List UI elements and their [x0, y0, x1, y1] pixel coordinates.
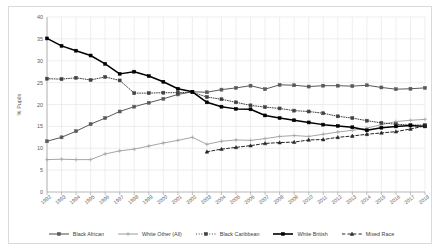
data-point-marker — [161, 141, 165, 145]
data-point-marker — [307, 121, 310, 124]
data-point-marker — [89, 123, 92, 126]
data-point-marker — [307, 85, 310, 88]
data-point-marker — [147, 101, 150, 104]
x-tick-label: 2011 — [316, 194, 328, 206]
data-point-marker — [191, 90, 194, 93]
x-tick-label: 2009 — [287, 193, 300, 205]
data-point-marker — [380, 121, 383, 124]
chart-legend: Black AfricanWhite Other (All)Black Cari… — [9, 225, 433, 243]
data-point-marker — [351, 85, 354, 88]
line-chart-plot: 0510152025303540 19921993199419951996199… — [9, 7, 433, 225]
data-point-marker — [351, 117, 354, 120]
legend-item-white-british[interactable]: White British — [272, 230, 327, 238]
data-point-marker — [380, 126, 383, 129]
data-point-marker — [60, 44, 63, 47]
data-point-marker — [336, 124, 339, 127]
data-point-marker — [365, 129, 368, 132]
x-tick-label: 2018 — [417, 193, 430, 205]
data-point-marker — [336, 115, 339, 118]
data-point-marker — [424, 86, 427, 89]
x-tick-label: 1995 — [83, 193, 96, 205]
x-tick-label: 2007 — [258, 193, 271, 205]
data-point-marker — [118, 110, 121, 113]
data-point-marker — [264, 106, 267, 109]
legend-key-icon — [195, 230, 217, 238]
data-point-marker — [89, 158, 93, 162]
data-point-marker — [282, 233, 285, 236]
x-tick-label: 1999 — [141, 193, 154, 205]
data-point-marker — [264, 114, 267, 117]
x-tick-label: 2016 — [388, 193, 401, 205]
x-tick-label: 2013 — [345, 193, 358, 205]
data-point-marker — [118, 79, 121, 82]
data-point-marker — [60, 157, 64, 161]
legend-label: White British — [297, 231, 327, 237]
legend-item-white-other-all[interactable]: White Other (All) — [117, 230, 182, 238]
legend-item-black-caribbean[interactable]: Black Caribbean — [195, 230, 260, 238]
data-point-marker — [293, 109, 296, 112]
x-tick-label: 2017 — [403, 193, 416, 205]
legend-key-icon — [117, 230, 139, 238]
data-point-marker — [118, 72, 121, 75]
data-point-marker — [293, 84, 296, 87]
data-point-marker — [75, 49, 78, 52]
legend-key-icon — [48, 230, 70, 238]
legend-label: White Other (All) — [142, 231, 182, 237]
data-point-marker — [235, 101, 238, 104]
x-tick-label: 1998 — [127, 193, 140, 205]
x-tick-label: 2001 — [170, 193, 183, 205]
data-point-marker — [278, 117, 281, 120]
data-point-marker — [365, 119, 368, 122]
data-point-marker — [147, 92, 150, 95]
data-point-marker — [249, 104, 252, 107]
data-point-marker — [278, 83, 281, 86]
data-point-marker — [162, 91, 165, 94]
data-point-marker — [293, 119, 296, 122]
grid-lines — [47, 17, 425, 192]
data-point-marker — [126, 232, 130, 236]
data-point-marker — [307, 110, 310, 113]
data-point-marker — [264, 88, 267, 91]
data-point-marker — [205, 91, 208, 94]
data-point-marker — [380, 86, 383, 89]
data-point-marker — [162, 80, 165, 83]
x-axis-tick-labels: 1992199319941995199619971998199920002001… — [39, 193, 430, 205]
y-tick-label: 0 — [40, 189, 43, 195]
data-point-marker — [46, 77, 49, 80]
data-point-marker — [133, 92, 136, 95]
y-tick-label: 25 — [37, 80, 43, 86]
y-tick-label: 15 — [37, 123, 43, 129]
x-tick-label: 2000 — [156, 193, 169, 205]
y-tick-label: 35 — [37, 36, 43, 42]
data-point-marker — [394, 125, 397, 128]
data-point-marker — [292, 134, 296, 138]
y-tick-label: 10 — [37, 145, 43, 151]
data-point-marker — [46, 37, 49, 40]
data-point-marker — [365, 84, 368, 87]
data-point-marker — [118, 149, 122, 153]
data-point-marker — [75, 130, 78, 133]
x-tick-label: 2006 — [243, 193, 256, 205]
legend-item-black-african[interactable]: Black African — [48, 230, 104, 238]
data-point-marker — [263, 137, 267, 141]
x-tick-label: 2003 — [199, 193, 212, 205]
chart-card: 0510152025303540 19921993199419951996199… — [8, 6, 432, 244]
x-tick-label: 2005 — [228, 193, 241, 205]
data-point-marker — [336, 84, 339, 87]
x-tick-label: 1992 — [39, 193, 52, 205]
data-point-marker — [234, 138, 238, 142]
data-point-marker — [190, 135, 194, 139]
legend-label: Black Caribbean — [220, 231, 260, 237]
data-point-marker — [351, 126, 354, 129]
x-tick-label: 1996 — [98, 193, 111, 205]
legend-item-mixed-race[interactable]: Mixed Race — [341, 230, 394, 238]
data-point-marker — [322, 84, 325, 87]
data-point-marker — [205, 142, 209, 146]
data-point-marker — [60, 78, 63, 81]
data-point-marker — [322, 112, 325, 115]
legend-key-icon — [341, 230, 363, 238]
data-point-marker — [409, 124, 412, 127]
data-point-marker — [220, 105, 223, 108]
y-tick-label: 40 — [37, 14, 43, 20]
data-point-marker — [132, 147, 136, 151]
